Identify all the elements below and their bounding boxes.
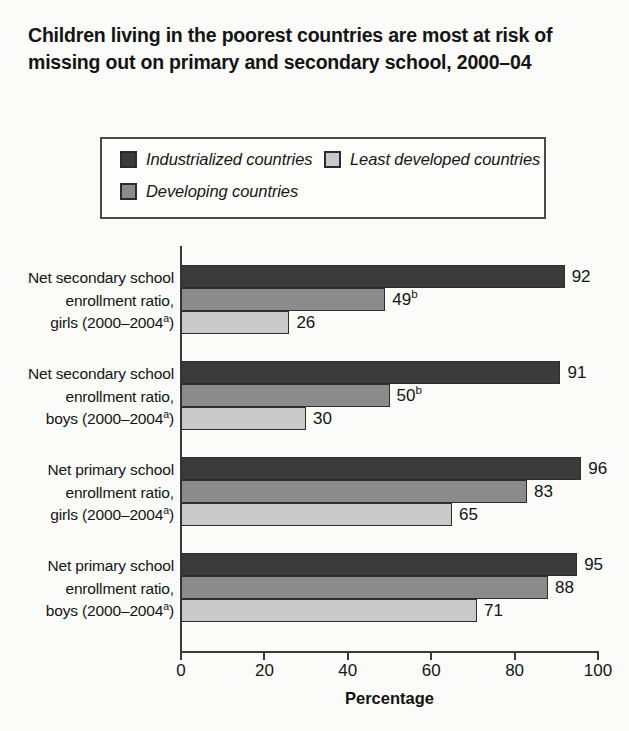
bar[interactable] — [181, 480, 527, 503]
bar[interactable] — [181, 265, 565, 288]
bar[interactable] — [181, 384, 390, 407]
x-axis-tick-label: 0 — [176, 661, 185, 681]
bar-value-number: 83 — [534, 482, 553, 501]
bar-row: 49b — [181, 288, 598, 311]
bar-value-label: 49b — [392, 290, 417, 310]
category-label-tail: ) — [169, 410, 174, 427]
x-axis-tick-mark — [347, 651, 349, 660]
bar-value-label: 95 — [584, 555, 603, 575]
category-label-line: enrollment ratio, — [8, 482, 174, 505]
category-label-text: girls (2000–2004 — [50, 506, 163, 523]
category-label: Net secondary schoolenrollment ratio,gir… — [8, 267, 174, 335]
bar[interactable] — [181, 553, 577, 576]
x-axis-tick-label: 100 — [584, 661, 612, 681]
bar-value-number: 95 — [584, 555, 603, 574]
bar-value-label: 96 — [588, 459, 607, 479]
category-label-line: Net primary school — [8, 555, 174, 578]
bar-value-number: 26 — [296, 313, 315, 332]
x-axis-tick-mark — [430, 651, 432, 660]
bar-row: 88 — [181, 576, 598, 599]
bar-row: 91 — [181, 361, 598, 384]
bar-value-number: 91 — [567, 363, 586, 382]
bar-value-label: 50b — [397, 386, 422, 406]
bar[interactable] — [181, 361, 560, 384]
chart-plot-area: Percentage 020406080100Net secondary sch… — [0, 0, 629, 731]
x-axis-tick-mark — [514, 651, 516, 660]
category-label-line: girls (2000–2004a) — [8, 504, 174, 527]
category-label-line: boys (2000–2004a) — [8, 600, 174, 623]
footnote-marker-b: b — [411, 288, 417, 300]
category-label-text: boys (2000–2004 — [46, 410, 164, 427]
bar-row: 92 — [181, 265, 598, 288]
bar-value-number: 30 — [313, 409, 332, 428]
category-label-tail: ) — [169, 506, 174, 523]
x-axis-line — [180, 651, 599, 653]
bar-row: 30 — [181, 407, 598, 430]
bar[interactable] — [181, 311, 289, 334]
bar-value-number: 88 — [555, 578, 574, 597]
bar-value-number: 49 — [392, 290, 411, 309]
x-axis-tick-label: 40 — [338, 661, 357, 681]
category-label-text: boys (2000–2004 — [46, 602, 164, 619]
category-label-line: girls (2000–2004a) — [8, 312, 174, 335]
bar-value-label: 83 — [534, 482, 553, 502]
x-axis-tick-label: 20 — [255, 661, 274, 681]
bar[interactable] — [181, 503, 452, 526]
bar[interactable] — [181, 288, 385, 311]
bar[interactable] — [181, 407, 306, 430]
category-label-line: Net secondary school — [8, 363, 174, 386]
category-label: Net secondary schoolenrollment ratio,boy… — [8, 363, 174, 431]
category-label-tail: ) — [169, 602, 174, 619]
bar[interactable] — [181, 576, 548, 599]
category-label-line: Net secondary school — [8, 267, 174, 290]
bar-value-label: 71 — [484, 601, 503, 621]
x-axis-title: Percentage — [180, 689, 599, 708]
x-axis-tick-mark — [263, 651, 265, 660]
category-label-line: enrollment ratio, — [8, 578, 174, 601]
bar-value-number: 96 — [588, 459, 607, 478]
bar-value-label: 88 — [555, 578, 574, 598]
bar-row: 71 — [181, 599, 598, 622]
bar[interactable] — [181, 457, 581, 480]
bar-value-label: 92 — [572, 267, 591, 287]
bar-value-number: 92 — [572, 267, 591, 286]
bar-value-label: 65 — [459, 505, 478, 525]
bar-value-label: 30 — [313, 409, 332, 429]
bar-row: 65 — [181, 503, 598, 526]
bar-row: 95 — [181, 553, 598, 576]
category-label: Net primary schoolenrollment ratio,girls… — [8, 459, 174, 527]
bar-row: 83 — [181, 480, 598, 503]
category-label-text: girls (2000–2004 — [50, 314, 163, 331]
bar-value-label: 26 — [296, 313, 315, 333]
bar-row: 50b — [181, 384, 598, 407]
category-label-tail: ) — [169, 314, 174, 331]
category-label-line: boys (2000–2004a) — [8, 408, 174, 431]
category-label-line: enrollment ratio, — [8, 386, 174, 409]
bar-value-number: 50 — [397, 386, 416, 405]
bar-value-number: 71 — [484, 601, 503, 620]
bar-row: 96 — [181, 457, 598, 480]
category-label-line: Net primary school — [8, 459, 174, 482]
category-label-line: enrollment ratio, — [8, 290, 174, 313]
bar-value-number: 65 — [459, 505, 478, 524]
x-axis-tick-label: 80 — [505, 661, 524, 681]
bar-value-label: 91 — [567, 363, 586, 383]
x-axis-tick-mark — [597, 651, 599, 660]
bar[interactable] — [181, 599, 477, 622]
x-axis-tick-mark — [180, 651, 182, 660]
footnote-marker-b: b — [415, 384, 421, 396]
category-label: Net primary schoolenrollment ratio,boys … — [8, 555, 174, 623]
x-axis-tick-label: 60 — [422, 661, 441, 681]
bar-row: 26 — [181, 311, 598, 334]
